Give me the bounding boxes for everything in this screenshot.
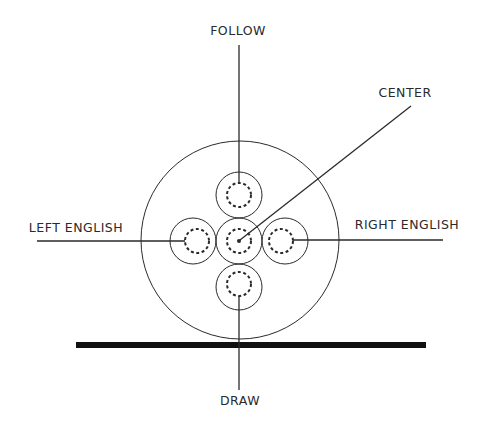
left-english-label: LEFT ENGLISH <box>29 222 123 235</box>
contact-center <box>216 218 262 264</box>
draw-label: DRAW <box>220 395 260 408</box>
center-label: CENTER <box>378 87 431 100</box>
right-english-label: RIGHT ENGLISH <box>355 219 460 232</box>
table-surface-bar <box>76 342 426 348</box>
cue-ball-diagram <box>0 0 484 428</box>
contact-right-english <box>262 218 308 264</box>
follow-label: FOLLOW <box>210 25 266 38</box>
